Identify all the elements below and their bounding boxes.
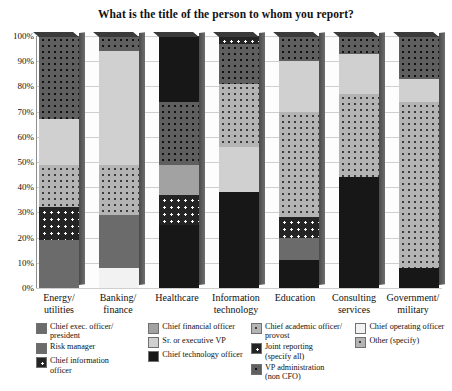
bar-segment[interactable] xyxy=(279,260,319,288)
legend-column: Chief exec. officer/presidentRisk manage… xyxy=(36,322,140,386)
bar-top-face xyxy=(213,32,259,37)
legend-label-line: officer xyxy=(50,366,109,375)
legend-label-line: (non CFO) xyxy=(265,372,325,381)
bar-side-face xyxy=(79,32,85,285)
bar-segment[interactable] xyxy=(159,195,199,225)
legend-column: Chief academic officer/provostJoint repo… xyxy=(251,322,351,386)
y-tick-label: 70% xyxy=(0,107,34,117)
y-tick-label: 0% xyxy=(0,283,34,293)
legend-label: Chief operating officer xyxy=(369,322,444,331)
y-tick-label: 90% xyxy=(0,56,34,66)
bar-segment[interactable] xyxy=(99,36,139,51)
bar-column[interactable] xyxy=(96,36,142,288)
legend-label-line: president xyxy=(50,331,113,340)
legend-item[interactable]: Risk manager xyxy=(36,342,140,354)
bar-segment[interactable] xyxy=(339,177,379,288)
bar-segment[interactable] xyxy=(339,54,379,94)
x-axis-label: Banking/finance xyxy=(89,292,147,322)
bar-segment[interactable] xyxy=(159,165,199,195)
plot-area xyxy=(36,36,442,288)
bar-column[interactable] xyxy=(396,36,442,288)
legend-item[interactable]: Chief academic officer/provost xyxy=(251,322,351,340)
page-title: What is the title of the person to whom … xyxy=(0,8,452,20)
gridline xyxy=(36,288,442,289)
x-axis-label: Energy/utilities xyxy=(30,292,88,322)
y-tick-label: 60% xyxy=(0,132,34,142)
legend-swatch-icon xyxy=(355,323,366,334)
bar-top-face xyxy=(393,32,439,37)
bar-column[interactable] xyxy=(276,36,322,288)
bar-column[interactable] xyxy=(36,36,82,288)
x-axis-label-line: finance xyxy=(89,304,147,316)
bar-segment[interactable] xyxy=(279,36,319,61)
legend-item[interactable]: VP administration(non CFO) xyxy=(251,363,351,381)
legend-swatch-icon xyxy=(355,337,366,348)
bar-segment[interactable] xyxy=(39,240,79,288)
legend-swatch-icon xyxy=(251,323,262,334)
bar-segment[interactable] xyxy=(399,36,439,79)
legend-item[interactable]: Other (specify) xyxy=(355,336,452,348)
bar-side-face xyxy=(259,32,265,285)
legend-label: Sr. or executive VP xyxy=(162,336,226,345)
bar-segment[interactable] xyxy=(399,102,439,268)
legend-label: Chief financial officer xyxy=(162,322,235,331)
legend-label: Risk manager xyxy=(50,342,95,351)
legend-item[interactable]: Joint reporting(specify all) xyxy=(251,342,351,360)
bar-top-face xyxy=(33,32,79,37)
legend-label-line: Joint reporting xyxy=(265,342,313,351)
bar-segment[interactable] xyxy=(159,225,199,288)
legend-label: Chief academic officer/provost xyxy=(265,322,342,340)
legend-item[interactable]: Chief operating officer xyxy=(355,322,452,334)
bar-segment[interactable] xyxy=(219,147,259,192)
legend-item[interactable]: Chief informationofficer xyxy=(36,356,140,374)
bar-segment[interactable] xyxy=(219,44,259,84)
legend-column: Chief financial officerSr. or executive … xyxy=(148,322,245,386)
legend-item[interactable]: Chief exec. officer/president xyxy=(36,322,140,340)
bar-segment[interactable] xyxy=(399,79,439,102)
legend-item[interactable]: Chief technology officer xyxy=(148,350,245,362)
bar-segment[interactable] xyxy=(39,207,79,240)
bar-stack xyxy=(279,36,319,288)
bar-segment[interactable] xyxy=(39,165,79,208)
bar-segment[interactable] xyxy=(279,238,319,261)
bar-segment[interactable] xyxy=(99,51,139,164)
bar-column[interactable] xyxy=(156,36,202,288)
bar-segment[interactable] xyxy=(219,84,259,147)
legend-swatch-icon xyxy=(251,364,262,375)
x-axis-label-line: Healthcare xyxy=(148,292,206,304)
bar-stack xyxy=(159,36,199,288)
bar-segment[interactable] xyxy=(339,36,379,54)
bar-segment[interactable] xyxy=(39,36,79,119)
bar-stack xyxy=(39,36,79,288)
bar-segment[interactable] xyxy=(99,165,139,215)
bar-stack xyxy=(99,36,139,288)
legend-label: Chief informationofficer xyxy=(50,356,109,374)
bar-segment[interactable] xyxy=(159,102,199,165)
bar-side-face xyxy=(319,32,325,285)
bar-segment[interactable] xyxy=(279,112,319,218)
bar-segment[interactable] xyxy=(219,36,259,44)
y-tick-label: 100% xyxy=(0,31,34,41)
legend-label-line: Chief exec. officer/ xyxy=(50,322,113,331)
bar-segment[interactable] xyxy=(39,119,79,164)
bar-stack xyxy=(339,36,379,288)
bar-top-face xyxy=(153,32,199,37)
bar-segment[interactable] xyxy=(219,192,259,288)
bar-column[interactable] xyxy=(336,36,382,288)
legend-item[interactable]: Chief financial officer xyxy=(148,322,245,334)
bar-segment[interactable] xyxy=(159,36,199,102)
x-axis-label-line: Banking/ xyxy=(89,292,147,304)
bar-segment[interactable] xyxy=(99,268,139,288)
x-axis-label: Consultingservices xyxy=(325,292,383,322)
bar-side-face xyxy=(199,32,205,285)
legend-item[interactable]: Sr. or executive VP xyxy=(148,336,245,348)
bar-segment[interactable] xyxy=(279,217,319,237)
bar-segment[interactable] xyxy=(279,61,319,111)
y-tick-label: 10% xyxy=(0,258,34,268)
bar-column[interactable] xyxy=(216,36,262,288)
bar-segment[interactable] xyxy=(339,94,379,177)
bar-segment[interactable] xyxy=(99,215,139,268)
bar-segment[interactable] xyxy=(399,268,439,288)
y-tick-label: 30% xyxy=(0,207,34,217)
y-tick-label: 80% xyxy=(0,81,34,91)
